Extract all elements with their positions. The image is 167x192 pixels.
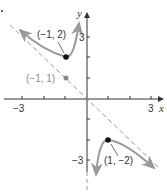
graph: y x −3 3 3 −3 (−1, 2) (−1, 1) (1, −2) xyxy=(0,0,167,192)
tick-label-x-neg3: −3 xyxy=(13,103,25,114)
corner-mark xyxy=(1,10,3,12)
label-point-max: (1, −2) xyxy=(104,155,133,166)
tick-label-y-neg3: −3 xyxy=(72,155,84,166)
label-point-mid: (−1, 1) xyxy=(26,73,55,84)
point-local-min xyxy=(63,54,69,60)
pointer-min xyxy=(58,42,64,53)
point-on-asymptote xyxy=(64,76,69,81)
x-axis xyxy=(4,96,163,99)
point-local-max xyxy=(105,137,111,143)
tick-label-x-3: 3 xyxy=(148,103,154,114)
axis-label-x: x xyxy=(158,102,164,114)
tick-label-y-3: 3 xyxy=(79,32,85,43)
axis-label-y: y xyxy=(76,7,82,19)
oblique-asymptote xyxy=(10,25,158,167)
y-axis xyxy=(87,13,90,172)
label-point-min: (−1, 2) xyxy=(37,29,66,40)
curve-left-branch-up xyxy=(66,23,79,57)
